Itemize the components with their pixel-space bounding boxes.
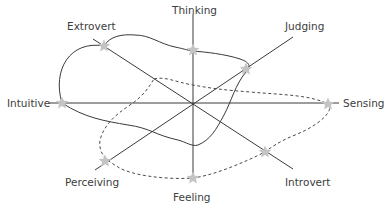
intuitive-star-icon bbox=[56, 97, 69, 109]
feeling-star-icon bbox=[187, 172, 200, 184]
intuitive-label: Intuitive bbox=[7, 98, 50, 109]
solid-profile-curve bbox=[59, 35, 249, 146]
extrovert-label: Extrovert bbox=[67, 21, 116, 32]
feeling-label: Feeling bbox=[173, 192, 211, 203]
introvert-star-icon bbox=[259, 146, 272, 158]
judging-label: Judging bbox=[285, 21, 324, 32]
introvert-label: Introvert bbox=[285, 177, 331, 188]
dashed-profile-curve bbox=[100, 78, 330, 178]
thinking-label: Thinking bbox=[172, 5, 217, 16]
sensing-label: Sensing bbox=[343, 98, 385, 109]
perceiving-star-icon bbox=[99, 155, 112, 167]
sensing-star-icon bbox=[322, 98, 335, 110]
perceiving-label: Perceiving bbox=[65, 177, 119, 188]
